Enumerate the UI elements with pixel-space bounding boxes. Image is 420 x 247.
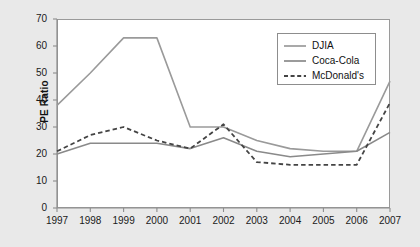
- chart-screenshot: PE Ratio 010203040506070 199719981999200…: [0, 0, 420, 247]
- series-line-coca-cola: [57, 132, 390, 156]
- y-tick-label: 30: [21, 121, 47, 132]
- y-tick-label: 70: [21, 13, 47, 24]
- series-line-mcdonald-s: [57, 103, 390, 165]
- x-tick-label: 2007: [370, 215, 410, 226]
- legend-label: Coca-Cola: [312, 55, 359, 66]
- legend-line-swatch-icon: [283, 41, 307, 51]
- legend-item-coca-cola: Coca-Cola: [283, 53, 370, 68]
- legend-label: DJIA: [312, 40, 334, 51]
- legend-item-djia: DJIA: [283, 38, 370, 53]
- y-tick-label: 0: [21, 202, 47, 213]
- chart-legend: DJIACoca-ColaMcDonald's: [277, 33, 376, 85]
- legend-label: McDonald's: [312, 70, 364, 81]
- legend-line-swatch-icon: [283, 71, 307, 81]
- y-tick-label: 40: [21, 94, 47, 105]
- y-tick-label: 50: [21, 67, 47, 78]
- legend-item-mcdonald-s: McDonald's: [283, 68, 370, 83]
- y-tick-label: 60: [21, 40, 47, 51]
- y-tick-label: 10: [21, 175, 47, 186]
- y-tick-label: 20: [21, 148, 47, 159]
- legend-line-swatch-icon: [283, 56, 307, 66]
- x-axis-ticks: [57, 208, 390, 212]
